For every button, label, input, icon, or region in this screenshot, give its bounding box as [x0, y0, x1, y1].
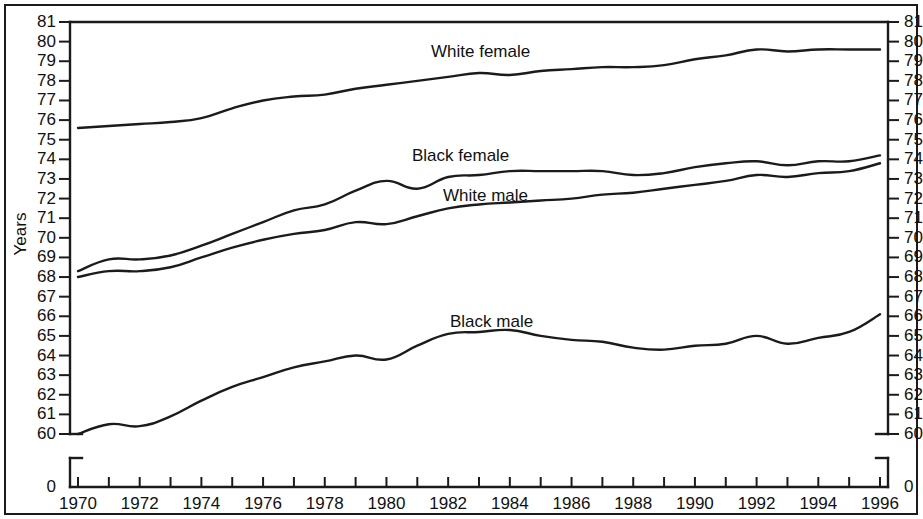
x-axis-tick-label: 1986 [537, 495, 607, 512]
y-axis-tick-label: 79 [0, 52, 56, 69]
x-axis-tick-label: 1974 [166, 495, 236, 512]
x-axis-tick-label: 1982 [413, 495, 483, 512]
series-label-white-female: White female [431, 42, 530, 62]
y-axis-tick-label: 61 [904, 405, 923, 422]
y-axis-tick-label: 77 [0, 91, 56, 108]
y-axis-title: Years [11, 204, 31, 264]
x-axis-tick-label: 1978 [290, 495, 360, 512]
y-axis-tick-label: 69 [904, 248, 923, 265]
y-axis-tick-label: 75 [904, 131, 923, 148]
y-axis-tick-label: 76 [0, 111, 56, 128]
y-axis-tick-label: 80 [0, 33, 56, 50]
x-axis-tick-label: 1980 [351, 495, 421, 512]
x-axis-tick-label: 1990 [660, 495, 730, 512]
y-axis-tick-label: 74 [0, 150, 56, 167]
y-axis-tick-label: 62 [904, 386, 923, 403]
y-axis-tick-label: 70 [904, 229, 923, 246]
x-axis-tick-label: 1972 [105, 495, 175, 512]
y-axis-tick-label: 66 [0, 307, 56, 324]
y-axis-tick-label: 81 [904, 13, 923, 30]
y-axis-tick-label: 66 [904, 307, 923, 324]
y-axis-tick-label: 79 [904, 52, 923, 69]
y-axis-tick-label: 73 [0, 170, 56, 187]
y-axis-tick-label: 64 [0, 347, 56, 364]
series-label-black-female: Black female [412, 146, 509, 166]
y-axis-tick-label: 62 [0, 386, 56, 403]
y-axis-tick-label: 75 [0, 131, 56, 148]
series-label-white-male: White male [443, 186, 528, 206]
y-axis-tick-label: 67 [904, 288, 923, 305]
x-axis-tick-label: 1994 [783, 495, 853, 512]
y-axis-tick-label: 63 [904, 366, 923, 383]
x-axis-tick-label: 1970 [43, 495, 113, 512]
y-axis-tick-label: 63 [0, 366, 56, 383]
y-axis-tick-label: 78 [904, 72, 923, 89]
y-axis-tick-label: 68 [904, 268, 923, 285]
series-lines-group [78, 49, 880, 434]
y-axis-tick-label: 0 [0, 478, 56, 495]
y-axis-tick-label: 64 [904, 347, 923, 364]
x-axis-tick-label: 1996 [845, 495, 915, 512]
x-axis-tick-label: 1992 [722, 495, 792, 512]
y-axis-tick-label: 61 [0, 405, 56, 422]
y-axis-tick-label: 65 [0, 327, 56, 344]
series-line-black-female [78, 155, 880, 271]
y-axis-tick-label: 80 [904, 33, 923, 50]
y-axis-tick-label: 73 [904, 170, 923, 187]
y-axis-tick-label: 60 [904, 425, 923, 442]
y-axis-tick-label: 74 [904, 150, 923, 167]
y-axis-tick-label: 60 [0, 425, 56, 442]
y-axis-tick-label: 65 [904, 327, 923, 344]
y-axis-tick-label: 76 [904, 111, 923, 128]
y-axis-tick-label: 81 [0, 13, 56, 30]
y-axis-tick-label: 0 [904, 478, 913, 495]
y-axis-tick-label: 68 [0, 268, 56, 285]
x-axis-tick-label: 1988 [598, 495, 668, 512]
y-axis-tick-label: 77 [904, 91, 923, 108]
series-line-black-male [78, 314, 880, 434]
y-axis-tick-label: 71 [904, 209, 923, 226]
y-axis-tick-label: 78 [0, 72, 56, 89]
x-axis-tick-label: 1984 [475, 495, 545, 512]
y-axis-tick-label: 72 [904, 190, 923, 207]
series-label-black-male: Black male [450, 312, 533, 332]
y-axis-tick-label: 67 [0, 288, 56, 305]
axes-group [60, 22, 898, 487]
series-line-white-male [78, 163, 880, 277]
x-axis-tick-label: 1976 [228, 495, 298, 512]
